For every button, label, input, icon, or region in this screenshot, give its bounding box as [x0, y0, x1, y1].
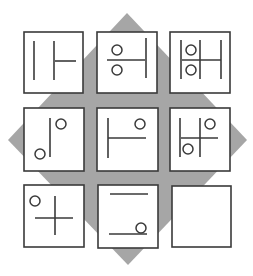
tile-frame: [172, 186, 231, 247]
answer-tile-blank: [172, 186, 231, 247]
tile-frame: [97, 32, 157, 93]
tile-r2c3: [170, 108, 230, 171]
tile-frame: [97, 108, 158, 171]
tile-r3c2: [98, 185, 158, 248]
tile-r2c1: [24, 108, 84, 171]
tile-r1c2: [97, 32, 157, 93]
tile-r2c2: [97, 108, 158, 171]
tile-r1c3: [170, 32, 230, 93]
tile-r1c1: [24, 32, 83, 93]
tile-grid: [24, 32, 231, 248]
puzzle-canvas: [0, 0, 253, 276]
tile-frame: [24, 108, 84, 171]
tile-r3c1: [24, 185, 84, 247]
tile-frame: [24, 185, 84, 247]
